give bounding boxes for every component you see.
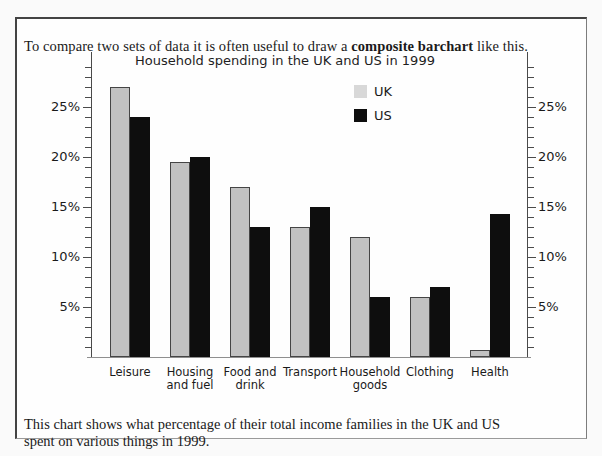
y-axis-tick <box>528 317 534 318</box>
bar-uk-housing-and-fuel <box>170 162 190 357</box>
y-axis-tick <box>85 127 91 128</box>
y-axis-tick <box>528 327 534 328</box>
legend-label-uk: UK <box>374 84 392 100</box>
y-axis-tick <box>528 77 534 78</box>
y-axis-tick <box>528 187 534 188</box>
y-axis-tick <box>85 267 91 268</box>
y-axis-tick <box>85 327 91 328</box>
bar-us-housing-and-fuel <box>190 157 210 357</box>
y-axis-tick <box>83 107 91 108</box>
y-axis-tick <box>85 217 91 218</box>
y-axis-tick <box>85 337 91 338</box>
legend-label-us: US <box>374 108 392 124</box>
y-axis-tick <box>85 237 91 238</box>
y-axis-tick <box>528 177 534 178</box>
y-axis-tick <box>528 207 536 208</box>
y-axis-tick <box>528 267 534 268</box>
bar-uk-household-goods <box>350 237 370 357</box>
y-axis-tick <box>85 147 91 148</box>
y-axis-tick <box>85 67 91 68</box>
y-axis-tick <box>85 177 91 178</box>
bar-us-transport <box>310 207 330 357</box>
y-axis-tick <box>528 337 534 338</box>
y-axis-tick <box>528 247 534 248</box>
y-axis-tick <box>85 167 91 168</box>
bar-us-health <box>490 214 510 357</box>
caption-line1: This chart shows what percentage of thei… <box>24 416 500 432</box>
y-axis-left <box>91 52 92 358</box>
category-label-housing-and-fuel: Housingand fuel <box>158 366 222 392</box>
y-axis-tick-label: 15% <box>36 199 80 215</box>
legend-swatch-us <box>354 109 367 122</box>
y-axis-tick-label: 25% <box>36 99 80 115</box>
y-axis-tick-label: 5% <box>538 299 584 315</box>
category-label-line: Health <box>458 366 522 379</box>
category-label-clothing: Clothing <box>398 366 462 379</box>
bar-uk-leisure <box>110 87 130 357</box>
bar-us-leisure <box>130 117 150 357</box>
y-axis-tick <box>528 287 534 288</box>
y-axis-tick <box>85 117 91 118</box>
y-axis-tick <box>528 197 534 198</box>
page: To compare two sets of data it is often … <box>0 0 602 456</box>
y-axis-tick-label: 10% <box>36 249 80 265</box>
y-axis-tick <box>85 77 91 78</box>
y-axis-tick-label: 5% <box>36 299 80 315</box>
y-axis-tick-label: 25% <box>538 99 584 115</box>
y-axis-tick <box>528 137 534 138</box>
y-axis-tick <box>83 307 91 308</box>
y-axis-tick <box>85 197 91 198</box>
y-axis-tick <box>85 287 91 288</box>
x-baseline <box>87 357 531 358</box>
category-label-leisure: Leisure <box>98 366 162 379</box>
category-label-food-and-drink: Food anddrink <box>218 366 282 392</box>
y-axis-tick <box>83 157 91 158</box>
y-axis-tick <box>85 347 91 348</box>
bar-us-clothing <box>430 287 450 357</box>
category-label-line: Leisure <box>98 366 162 379</box>
bar-us-household-goods <box>370 297 390 357</box>
y-axis-tick <box>528 67 534 68</box>
y-axis-tick <box>528 237 534 238</box>
y-axis-tick <box>85 247 91 248</box>
y-axis-tick <box>528 107 536 108</box>
y-axis-tick-label: 20% <box>538 149 584 165</box>
category-label-line: Transport <box>278 366 342 379</box>
bar-uk-transport <box>290 227 310 357</box>
y-axis-tick <box>528 307 536 308</box>
y-axis-tick-label: 10% <box>538 249 584 265</box>
y-axis-tick <box>528 157 536 158</box>
y-axis-tick <box>528 87 534 88</box>
bar-uk-food-and-drink <box>230 187 250 357</box>
y-axis-tick-label: 20% <box>36 149 80 165</box>
y-axis-tick <box>83 257 91 258</box>
y-axis-tick <box>83 207 91 208</box>
y-axis-tick <box>85 187 91 188</box>
y-axis-tick <box>528 297 534 298</box>
caption-text: This chart shows what percentage of thei… <box>24 416 576 451</box>
y-axis-tick <box>528 167 534 168</box>
y-axis-tick <box>85 317 91 318</box>
legend-swatch-uk <box>354 85 367 98</box>
composite-barchart: 5%5%10%10%15%15%20%20%25%25%LeisureHousi… <box>0 0 602 456</box>
y-axis-tick <box>85 87 91 88</box>
y-axis-tick <box>528 147 534 148</box>
category-label-line: drink <box>218 379 282 392</box>
bar-uk-clothing <box>410 297 430 357</box>
category-label-line: Clothing <box>398 366 462 379</box>
y-axis-tick <box>528 227 534 228</box>
caption-line2: spent on various things in 1999. <box>24 433 209 449</box>
y-axis-tick <box>85 227 91 228</box>
category-label-transport: Transport <box>278 366 342 379</box>
y-axis-tick <box>85 297 91 298</box>
y-axis-tick <box>85 277 91 278</box>
y-axis-tick <box>85 137 91 138</box>
y-axis-tick <box>528 277 534 278</box>
category-label-line: goods <box>338 379 402 392</box>
y-axis-tick <box>528 217 534 218</box>
y-axis-tick-label: 15% <box>538 199 584 215</box>
bar-uk-health <box>470 350 490 357</box>
y-axis-tick <box>528 257 536 258</box>
category-label-household-goods: Householdgoods <box>338 366 402 392</box>
category-label-line: and fuel <box>158 379 222 392</box>
